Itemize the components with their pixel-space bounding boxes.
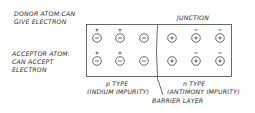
junction-line: [157, 25, 158, 77]
crystal-box: [87, 25, 232, 77]
n-region-ions: [168, 30, 225, 65]
barrier-pointer: [157, 77, 163, 95]
p-region-ions: [93, 29, 149, 66]
pn-junction-diagram: [0, 0, 255, 113]
